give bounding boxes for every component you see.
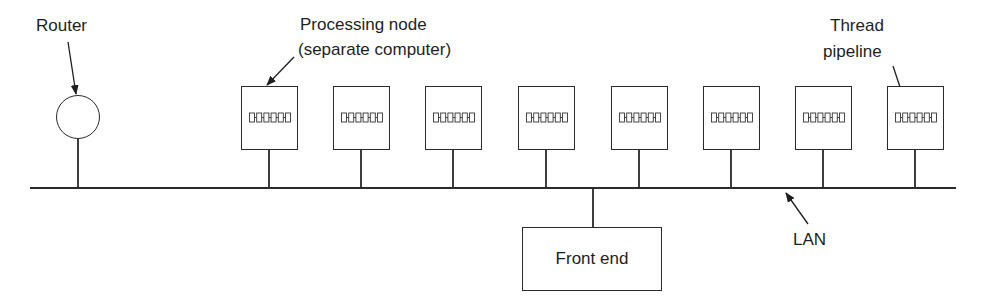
- thread-pipeline-icon: [895, 112, 937, 123]
- processing-node-6: [703, 86, 760, 150]
- processing-node-5: [611, 86, 668, 150]
- router-node: [56, 95, 100, 139]
- thread-pipeline-icon: [803, 112, 845, 123]
- processing-node-3: [425, 86, 482, 150]
- processing-node-8: [887, 86, 944, 150]
- thread-pipeline-label-line1: Thread: [830, 16, 884, 36]
- processing-node-2: [333, 86, 390, 150]
- processing-node-4: [518, 86, 575, 150]
- processing-node-arrow: [267, 57, 294, 85]
- processing-node-1: [241, 86, 298, 150]
- front-end-label: Front end: [556, 249, 629, 269]
- thread-pipeline-icon: [711, 112, 753, 123]
- thread-pipeline-icon: [341, 112, 383, 123]
- router-label: Router: [36, 16, 87, 36]
- router-arrow: [68, 42, 76, 94]
- thread-pipeline-icon: [249, 112, 291, 123]
- processing-node-7: [795, 86, 852, 150]
- thread-pipeline-label-line2: pipeline: [823, 42, 882, 62]
- lan-arrow: [786, 193, 808, 224]
- processing-node-label-line1: Processing node: [300, 15, 427, 35]
- processing-node-label-line2: (separate computer): [298, 40, 451, 60]
- front-end-box: Front end: [522, 227, 662, 291]
- thread-pipeline-icon: [526, 112, 568, 123]
- thread-pipeline-icon: [433, 112, 475, 123]
- node-stems: [269, 150, 915, 188]
- thread-pipeline-icon: [619, 112, 661, 123]
- lan-label: LAN: [793, 230, 826, 250]
